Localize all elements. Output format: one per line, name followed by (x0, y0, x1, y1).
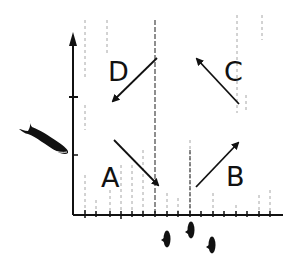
quadrant-label-a: A (101, 164, 119, 191)
small-fish-icon (164, 231, 171, 248)
diagram-canvas (0, 0, 297, 269)
quadrant-label-d: D (108, 58, 129, 85)
large-fish-icon (19, 120, 68, 154)
quadrant-diagram: D C A B (0, 0, 297, 269)
small-fish-icon (188, 222, 195, 239)
y-axis-arrowhead (69, 32, 77, 46)
small-fish-group-icon (161, 222, 216, 254)
quadrant-label-b: B (226, 163, 245, 190)
small-fish-icon (209, 237, 216, 254)
quadrant-label-c: C (224, 58, 243, 85)
